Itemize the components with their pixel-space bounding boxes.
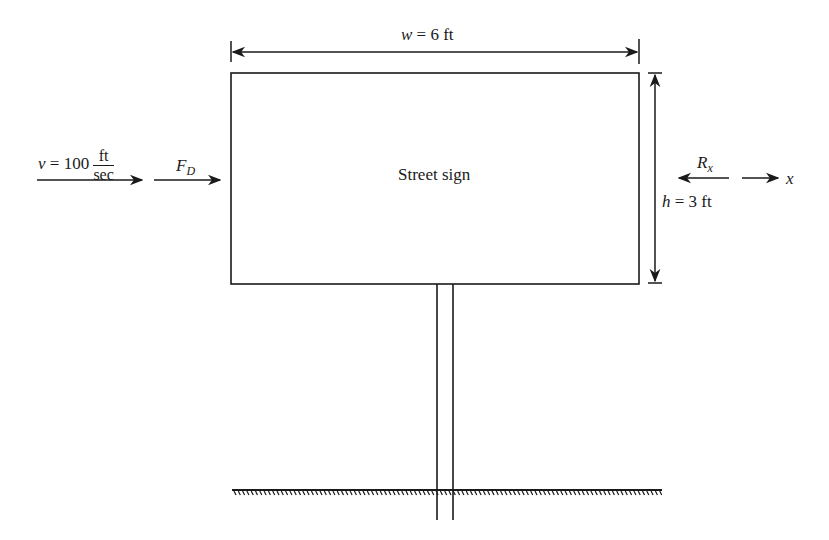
ground-line	[232, 490, 662, 495]
drag-force-label: FD	[176, 157, 195, 177]
diagram-canvas	[0, 0, 829, 540]
height-dimension-line	[648, 73, 662, 283]
sign-label: Street sign	[398, 166, 470, 183]
sign-post	[437, 284, 453, 520]
reaction-force-label: Rx	[697, 154, 713, 174]
x-axis-label: x	[786, 170, 794, 187]
height-label: h = 3 ft	[662, 193, 712, 210]
width-label: w = 6 ft	[401, 26, 454, 43]
velocity-label: v = 100 ftsec	[38, 148, 114, 183]
